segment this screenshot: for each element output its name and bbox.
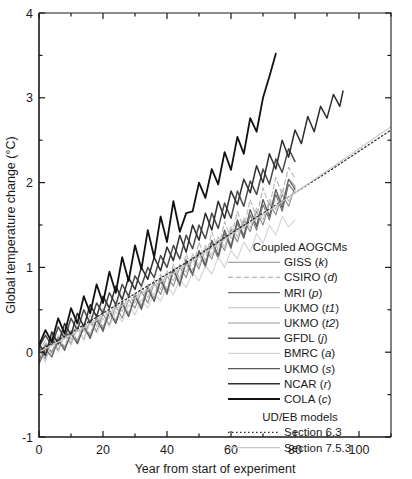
legend-entry-label[interactable]: COLA (c) — [284, 393, 331, 405]
chart-figure: 020406080100-101234 Coupled AOGCMsGISS (… — [0, 0, 412, 479]
plot-background — [0, 0, 412, 479]
legend-entry-label[interactable]: NCAR (r) — [284, 378, 331, 390]
legend-group-header: Coupled AOGCMs — [253, 241, 348, 253]
x-axis-label: Year from start of experiment — [135, 462, 296, 476]
x-tick-label: 60 — [224, 443, 238, 457]
x-tick-label: 40 — [160, 443, 174, 457]
y-tick-label: 2 — [26, 176, 33, 190]
y-axis-label: Global temperature change (°C) — [4, 136, 18, 313]
legend-entry-label[interactable]: MRI (p) — [284, 287, 323, 299]
legend-entry-label[interactable]: Section 6.3 — [284, 426, 342, 438]
legend-entry-label[interactable]: CSIRO (d) — [284, 271, 338, 283]
y-tick-label: 3 — [26, 91, 33, 105]
legend-entry-label[interactable]: GFDL (j) — [284, 332, 328, 344]
legend-entry-label[interactable]: UKMO (s) — [284, 363, 335, 375]
y-tick-label: 1 — [26, 261, 33, 275]
y-tick-label: -1 — [22, 431, 33, 445]
y-tick-label: 4 — [26, 7, 33, 21]
legend-entry-label[interactable]: UKMO (t1) — [284, 302, 339, 314]
x-tick-label: 20 — [96, 443, 110, 457]
legend-group-header: UD/EB models — [262, 411, 338, 423]
legend-entry-label[interactable]: UKMO (t2) — [284, 317, 339, 329]
y-tick-label: 0 — [26, 346, 33, 360]
legend-entry-label[interactable]: GISS (k) — [284, 256, 328, 268]
legend-entry-label[interactable]: BMRC (a) — [284, 347, 335, 359]
x-tick-label: 100 — [349, 443, 370, 457]
x-tick-label: 0 — [36, 443, 43, 457]
legend-entry-label[interactable]: Section 7.5.3 — [284, 442, 351, 454]
